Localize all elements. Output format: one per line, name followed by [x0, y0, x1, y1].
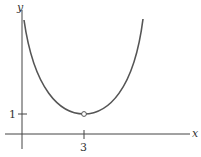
y-axis-label: y — [16, 1, 24, 14]
x-tick-label: 3 — [80, 141, 87, 154]
y-tick-label: 1 — [9, 108, 16, 121]
open-circle-marker — [82, 112, 87, 117]
chart-figure: y x 1 3 — [0, 0, 201, 157]
chart-svg: y x 1 3 — [0, 0, 201, 157]
curve-series — [24, 19, 143, 114]
x-axis-label: x — [192, 127, 199, 140]
